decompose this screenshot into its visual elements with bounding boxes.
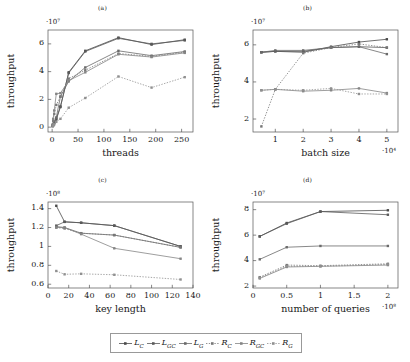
subplot-c: (c) ·10⁸ throughput key length 020406080… <box>0 176 205 328</box>
series-marker-L_GC <box>319 210 321 212</box>
subplot-a: (a) ·10⁷ throughput threads 050100150200… <box>0 4 205 176</box>
series-line-R_C <box>56 228 180 248</box>
subplot-d-y-multiplier: ·10⁷ <box>251 190 265 198</box>
subplot-a-y-tick: 2 <box>16 94 44 103</box>
subplot-d-y-tick: 2 <box>221 281 249 290</box>
series-marker-L_G <box>286 246 288 248</box>
legend-item-R_GC: RGC <box>235 338 265 349</box>
subplot-b-y-axis-label: throughput <box>210 54 221 109</box>
series-marker-R_C <box>386 46 388 48</box>
series-marker-R_G <box>386 93 388 95</box>
series-marker-R_GC <box>179 258 181 260</box>
series-marker-L_GC <box>80 222 82 224</box>
subplot-c-y-tick: 1.4 <box>16 203 44 212</box>
series-marker-L_G <box>274 49 276 51</box>
legend-label-L_GC: LGC <box>162 338 176 349</box>
series-marker-L_GC <box>113 224 115 226</box>
series-marker-L_G <box>55 116 57 118</box>
legend-item-L_GC: LGC <box>147 338 176 349</box>
subplot-b-y-multiplier: ·10⁷ <box>251 18 265 26</box>
subplot-c-x-axis-label: key length <box>48 303 193 314</box>
series-marker-L_GC <box>84 50 86 52</box>
subplot-d-x-tick: 1.5 <box>338 291 370 300</box>
legend-swatch-icon <box>119 340 132 347</box>
series-marker-L_GC <box>117 37 119 39</box>
series-marker-R_G <box>80 273 82 275</box>
legend-item-L_C: LC <box>119 338 144 349</box>
series-line-L_G <box>53 51 185 126</box>
series-marker-R_GC <box>113 247 115 249</box>
series-marker-L_C <box>386 38 388 40</box>
legend-item-R_C: RC <box>206 338 231 349</box>
series-line-R_GC <box>260 265 388 278</box>
subplot-c-y-tick: 0.8 <box>16 260 44 269</box>
series-marker-R_G <box>259 277 261 279</box>
series-marker-R_G <box>117 75 119 77</box>
figure-legend: LCLGCLGRCRGCRG <box>110 333 302 353</box>
series-marker-R_C <box>84 69 86 71</box>
subplot-d-y-axis-label: throughput <box>210 218 221 273</box>
series-line-R_C <box>53 52 185 125</box>
series-marker-R_G <box>113 274 115 276</box>
series-marker-L_GC <box>286 222 288 224</box>
subplot-b-y-tick: 6 <box>221 39 249 48</box>
series-marker-R_G <box>387 263 389 265</box>
series-marker-R_G <box>286 265 288 267</box>
subplot-d-y-tick: 6 <box>221 230 249 239</box>
series-marker-R_G <box>68 107 70 109</box>
legend-label-L_C: LC <box>134 338 144 349</box>
series-marker-R_G <box>274 88 276 90</box>
subplot-b-title: (b) <box>205 4 410 11</box>
series-line-L_GC <box>260 212 388 237</box>
series-marker-R_G <box>63 273 65 275</box>
subplot-c-y-axis-label: throughput <box>5 218 16 273</box>
series-marker-R_C <box>113 234 115 236</box>
subplot-a-x-axis-label: threads <box>48 147 193 158</box>
series-marker-R_C <box>302 52 304 54</box>
series-marker-R_GC <box>84 71 86 73</box>
series-line-L_G <box>260 246 388 259</box>
series-marker-L_G <box>358 45 360 47</box>
series-marker-R_C <box>358 43 360 45</box>
legend-swatch-icon <box>179 340 192 347</box>
series-marker-R_GC <box>358 87 360 89</box>
subplot-c-y-tick: 1 <box>16 241 44 250</box>
series-marker-L_G <box>302 49 304 51</box>
series-marker-L_GC <box>68 72 70 74</box>
subplot-d-y-tick: 8 <box>221 204 249 213</box>
legend-item-L_G: LG <box>179 338 204 349</box>
legend-label-R_G: RG <box>282 338 292 349</box>
subplot-a-y-multiplier: ·10⁷ <box>46 18 60 26</box>
series-line-R_G <box>56 271 180 280</box>
series-marker-R_G <box>53 123 55 125</box>
series-marker-R_G <box>150 86 152 88</box>
series-marker-R_G <box>55 270 57 272</box>
series-marker-L_G <box>117 50 119 52</box>
series-marker-R_C <box>260 125 262 127</box>
subplot-d-x-axis-label: number of queries <box>253 303 398 314</box>
subplot-d-title: (d) <box>205 176 410 183</box>
subplot-d-x-tick: 2 <box>372 291 404 300</box>
series-marker-R_GC <box>55 93 57 95</box>
series-marker-R_G <box>55 121 57 123</box>
series-marker-R_GC <box>184 52 186 54</box>
legend-label-R_C: RC <box>221 338 231 349</box>
subplot-a-title: (a) <box>0 4 205 11</box>
series-marker-L_G <box>319 245 321 247</box>
series-marker-R_C <box>68 77 70 79</box>
series-marker-R_G <box>84 97 86 99</box>
subplot-a-y-axis-label: throughput <box>5 54 16 109</box>
subplot-d-y-tick: 4 <box>221 255 249 264</box>
series-line-L_GC <box>56 222 180 247</box>
subplot-d-x-tick: 0.5 <box>271 291 303 300</box>
series-marker-L_GC <box>59 105 61 107</box>
subplot-b-x-multiplier: ·10⁴ <box>382 147 396 155</box>
subplot-b-x-tick: 5 <box>371 135 403 144</box>
series-marker-L_GC <box>387 214 389 216</box>
series-marker-L_GC <box>150 43 152 45</box>
subplot-d-x-tick: 1 <box>304 291 336 300</box>
legend-swatch-icon <box>206 340 219 347</box>
legend-swatch-icon <box>147 340 160 347</box>
series-line-R_GC <box>53 53 185 124</box>
subplot-c-y-multiplier: ·10⁸ <box>46 190 60 198</box>
